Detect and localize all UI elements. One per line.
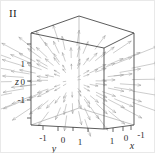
z-axis-ticks (27, 44, 31, 118)
x-tick-label-1: 1 (110, 136, 115, 146)
y-tick-label-1: 1 (78, 137, 83, 147)
y-tick-label-0: 0 (61, 135, 66, 145)
z-axis-name: z (14, 76, 19, 87)
z-tick-label-minus1: -1 (18, 95, 26, 105)
y-tick-label-minus1: -1 (39, 133, 47, 143)
cube-back-edges (31, 16, 134, 125)
z-tick-label-0: 0 (21, 77, 26, 87)
x-axis-name: x (129, 140, 135, 151)
x-tick-label-minus1: -1 (137, 130, 145, 140)
cube-edges (31, 16, 134, 129)
z-tick-label-1: 1 (21, 59, 26, 69)
figure-panel: II (0, 0, 155, 153)
x-tick-label-0: 0 (124, 133, 129, 143)
vector-field-plot: 1 0 -1 z -1 0 1 y 1 0 -1 x (1, 1, 155, 153)
y-axis-name: y (51, 143, 57, 153)
